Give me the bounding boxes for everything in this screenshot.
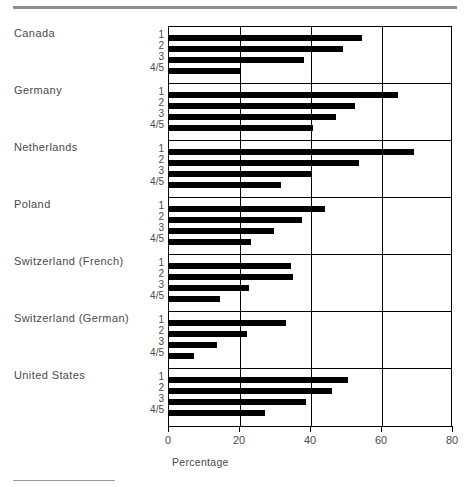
bar	[169, 399, 306, 405]
bar-series	[169, 312, 451, 368]
bar	[169, 274, 293, 280]
bar	[169, 92, 398, 98]
x-tick-label: 60	[375, 434, 387, 446]
bar	[169, 239, 251, 245]
bar	[169, 103, 355, 109]
country-label: Netherlands	[14, 141, 78, 153]
bar-chart: CanadaGermanyNetherlandsPolandSwitzerlan…	[0, 0, 469, 487]
category-tick-label: 4/5	[138, 176, 164, 187]
category-tick-label: 4/5	[138, 347, 164, 358]
bar	[169, 46, 343, 52]
group-panel	[169, 255, 451, 312]
group-panel	[169, 27, 451, 84]
x-tick-mark	[310, 426, 311, 432]
bar	[169, 182, 281, 188]
category-tick-label: 4/5	[138, 290, 164, 301]
category-tick-label: 2	[138, 97, 164, 108]
bar	[169, 285, 249, 291]
group-panel	[169, 198, 451, 255]
category-tick-label: 3	[138, 108, 164, 119]
category-tick-label: 2	[138, 40, 164, 51]
category-tick-label: 1	[138, 314, 164, 325]
bar-series	[169, 141, 451, 197]
bar	[169, 57, 304, 63]
x-tick-mark	[381, 426, 382, 432]
country-label: United States	[14, 369, 85, 381]
category-tick-label: 4/5	[138, 119, 164, 130]
bar	[169, 217, 302, 223]
category-tick-label: 2	[138, 154, 164, 165]
category-tick-label: 3	[138, 336, 164, 347]
bar	[169, 320, 286, 326]
category-tick-label: 4/5	[138, 233, 164, 244]
plot-area	[168, 26, 452, 427]
category-tick-label: 3	[138, 393, 164, 404]
category-tick-label: 1	[138, 86, 164, 97]
category-tick-label: 1	[138, 143, 164, 154]
category-tick-label: 3	[138, 51, 164, 62]
bar	[169, 171, 311, 177]
country-label: Poland	[14, 198, 51, 210]
category-tick-label: 2	[138, 382, 164, 393]
bar	[169, 410, 265, 416]
category-tick-label: 4/5	[138, 404, 164, 415]
group-panel	[169, 369, 451, 426]
group-panel	[169, 141, 451, 198]
group-panel	[169, 312, 451, 369]
category-tick-label: 3	[138, 279, 164, 290]
bar-series	[169, 198, 451, 254]
bar-series	[169, 255, 451, 311]
bottom-divider-rule	[13, 480, 115, 481]
x-tick-mark	[452, 426, 453, 432]
bar	[169, 149, 414, 155]
x-axis-title: Percentage	[172, 456, 229, 468]
country-label: Switzerland (French)	[14, 255, 123, 267]
category-tick-label: 1	[138, 371, 164, 382]
x-tick-label: 80	[446, 434, 458, 446]
country-label: Canada	[14, 27, 55, 39]
category-tick-label: 1	[138, 29, 164, 40]
bar	[169, 160, 359, 166]
bar-series	[169, 84, 451, 140]
country-label: Germany	[14, 84, 62, 96]
bar	[169, 125, 313, 131]
x-tick-label: 40	[304, 434, 316, 446]
x-tick-label: 20	[233, 434, 245, 446]
bar	[169, 263, 291, 269]
category-tick-label: 2	[138, 325, 164, 336]
bar	[169, 206, 325, 212]
bar	[169, 35, 362, 41]
group-panel	[169, 84, 451, 141]
category-tick-label: 2	[138, 211, 164, 222]
bar	[169, 331, 247, 337]
bar	[169, 377, 348, 383]
x-tick-mark	[239, 426, 240, 432]
bar	[169, 228, 274, 234]
category-tick-label: 2	[138, 268, 164, 279]
bar	[169, 342, 217, 348]
category-label-column: 1234/51234/51234/51234/51234/51234/51234…	[136, 26, 164, 426]
bar-series	[169, 27, 451, 83]
category-tick-label: 1	[138, 200, 164, 211]
bar	[169, 388, 332, 394]
bar	[169, 353, 194, 359]
category-tick-label: 1	[138, 257, 164, 268]
country-label: Switzerland (German)	[14, 312, 129, 324]
bar	[169, 296, 220, 302]
x-axis-ticks	[168, 426, 452, 433]
x-tick-label: 0	[165, 434, 171, 446]
bar	[169, 114, 336, 120]
category-tick-label: 3	[138, 165, 164, 176]
x-tick-mark	[168, 426, 169, 432]
bar-series	[169, 369, 451, 426]
category-tick-label: 4/5	[138, 62, 164, 73]
bar	[169, 68, 240, 74]
category-tick-label: 3	[138, 222, 164, 233]
